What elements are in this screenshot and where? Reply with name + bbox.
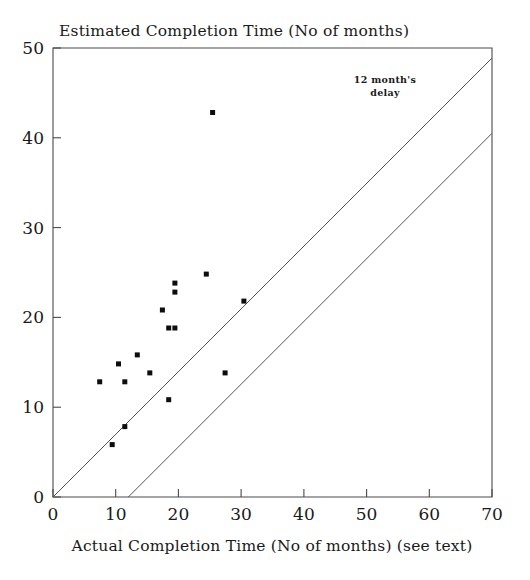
data-point <box>172 290 177 295</box>
scatter-chart-figure: 0 10 20 30 40 50 60 70 0 10 20 30 40 50 … <box>0 0 530 580</box>
parity-line <box>53 58 492 497</box>
data-point <box>172 281 177 286</box>
x-axis-ticks <box>53 489 492 497</box>
chart-canvas: 0 10 20 30 40 50 60 70 0 10 20 30 40 50 … <box>0 0 530 580</box>
delay-annotation-line1: 12 month's <box>354 74 416 85</box>
data-point <box>116 361 121 366</box>
data-point <box>172 326 177 331</box>
data-point <box>160 308 165 313</box>
y-axis-title: Estimated Completion Time (No of months) <box>59 22 409 40</box>
x-tick-label: 0 <box>48 504 59 524</box>
data-point <box>223 370 228 375</box>
reference-lines <box>53 58 492 497</box>
x-axis-title: Actual Completion Time (No of months) (s… <box>71 537 473 555</box>
y-tick-label: 0 <box>33 487 44 507</box>
y-tick-label: 10 <box>22 397 44 417</box>
data-point <box>210 110 215 115</box>
data-point <box>122 424 127 429</box>
x-tick-label: 60 <box>418 504 440 524</box>
x-tick-label: 30 <box>230 504 252 524</box>
data-point <box>97 379 102 384</box>
data-point <box>110 442 115 447</box>
y-tick-label: 40 <box>22 128 44 148</box>
x-tick-label: 20 <box>168 504 190 524</box>
data-point <box>204 272 209 277</box>
data-point <box>122 379 127 384</box>
data-point <box>166 397 171 402</box>
x-tick-label: 10 <box>105 504 127 524</box>
data-point <box>135 352 140 357</box>
data-point <box>166 326 171 331</box>
twelve-month-delay-line <box>128 133 492 497</box>
x-tick-label: 70 <box>481 504 503 524</box>
y-tick-label: 30 <box>22 218 44 238</box>
plot-frame <box>53 48 492 497</box>
x-tick-label: 50 <box>356 504 378 524</box>
y-axis-ticks <box>53 48 61 497</box>
y-tick-label: 50 <box>22 38 44 58</box>
x-tick-label: 40 <box>293 504 315 524</box>
data-point <box>241 299 246 304</box>
y-tick-label: 20 <box>22 307 44 327</box>
delay-annotation-line2: delay <box>370 87 400 98</box>
data-point-group <box>97 110 246 447</box>
data-point <box>147 370 152 375</box>
